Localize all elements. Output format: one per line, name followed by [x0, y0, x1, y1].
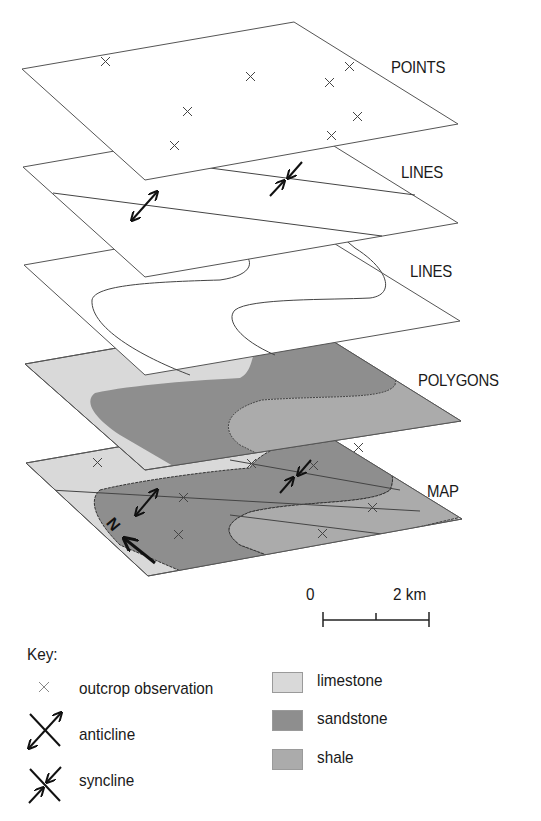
scale-bar [323, 612, 429, 627]
layer-label-points: POINTS [391, 58, 445, 78]
key-label-sandstone: sandstone [317, 709, 388, 729]
swatch-limestone [272, 672, 303, 693]
key-label-shale: shale [317, 748, 354, 768]
key-syncline-icon [29, 767, 61, 803]
layer-label-polygons: POLYGONS [418, 371, 499, 391]
layer-label-lines-folds: LINES [401, 163, 443, 183]
key-label-outcrop: outcrop observation [79, 679, 213, 699]
key-label-syncline: syncline [79, 771, 134, 791]
swatch-shale [272, 749, 303, 770]
layer-label-map: MAP [427, 482, 459, 502]
scale-end-label: 2 km [393, 585, 426, 605]
key-anticline-icon [29, 713, 61, 748]
scale-start-label: 0 [306, 585, 315, 605]
swatch-sandstone [272, 710, 303, 731]
layer-label-lines-contacts: LINES [410, 262, 452, 282]
key-label-limestone: limestone [317, 671, 382, 691]
key-label-anticline: anticline [79, 725, 135, 745]
key-cross-icon [39, 682, 49, 692]
key-title: Key: [27, 645, 58, 665]
